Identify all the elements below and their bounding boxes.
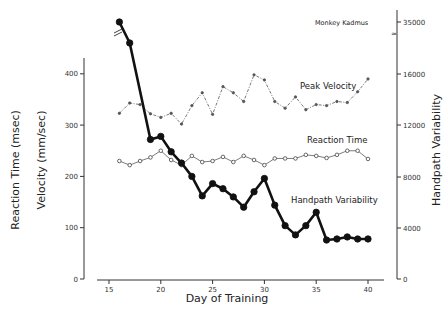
peak-velocity-point [180,123,182,125]
y-axis-title-reaction-time: Reaction Time (msec) [9,110,22,230]
handpath-variability-point [344,234,350,240]
peak-velocity-point [336,100,338,102]
reaction-time-point [242,154,246,158]
reaction-time-point [138,159,142,163]
label-reaction-time: Reaction Time [307,135,367,145]
y-axis-title-velocity: Velocity (mm/sec) [35,111,48,210]
peak-velocity-point [191,104,193,106]
handpath-variability-point [147,136,153,142]
peak-velocity-point [118,112,120,114]
right-tick-label: 12000 [403,122,425,130]
reaction-time-point [294,157,298,161]
peak-velocity-point [232,92,234,94]
left-tick-label: 0 [74,276,78,284]
reaction-time-point [283,157,287,161]
chart-figure: 0100200300400 ≈ 040008000120001600035000… [0,0,448,313]
left-y-ticks: 0100200300400 [65,70,84,283]
left-tick-label: 400 [65,70,78,78]
handpath-variability-point [282,222,288,228]
series-handpath-variability [114,19,371,243]
handpath-variability-point [220,186,226,192]
left-tick-label: 200 [65,173,78,181]
peak-velocity-point [294,96,296,98]
reaction-time-point [304,153,308,157]
handpath-variability-point [303,222,309,228]
reaction-time-point [314,154,318,158]
handpath-variability-point [251,189,257,195]
peak-velocity-point [367,78,369,80]
handpath-variability-point [189,173,195,179]
handpath-variability-point [168,149,174,155]
x-tick-label: 40 [364,286,373,294]
reaction-time-point [118,159,122,163]
x-tick-label: 35 [312,286,321,294]
reaction-time-point [366,157,370,161]
left-tick-label: 300 [65,122,78,130]
reaction-time-point [169,158,173,162]
handpath-variability-point [313,209,319,215]
peak-velocity-point [253,74,255,76]
label-handpath-variability: Handpath Variability [291,195,378,205]
right-tick-label: 0 [403,276,407,284]
peak-velocity-point [149,113,151,115]
reaction-time-point [345,149,349,153]
handpath-variability-point [334,236,340,242]
axis-break-mark: ≈ [391,30,397,38]
handpath-variability-point [354,236,360,242]
handpath-variability-point [158,133,164,139]
x-tick-label: 20 [156,286,165,294]
handpath-variability-point [209,180,215,186]
right-y-ticks: 040008000120001600035000 [397,19,425,284]
x-tick-label: 15 [105,286,114,294]
peak-velocity-point [160,116,162,118]
reaction-time-point [232,160,236,164]
handpath-variability-point [199,193,205,199]
handpath-variability-point [240,204,246,210]
peak-velocity-point [315,103,317,105]
peak-velocity-point [201,92,203,94]
peak-velocity-point [242,100,244,102]
reaction-time-point [263,163,267,167]
peak-velocity-point [346,101,348,103]
handpath-variability-point [127,40,133,46]
peak-velocity-point [222,85,224,87]
right-tick-label: 4000 [403,225,421,233]
reaction-time-point [190,154,194,158]
series-reaction-time [118,149,370,167]
handpath-variability-point [292,232,298,238]
reaction-time-point [273,157,277,161]
left-tick-label: 100 [65,224,78,232]
peak-velocity-point [129,102,131,104]
reaction-time-point [356,149,360,153]
peak-velocity-point [305,109,307,111]
x-axis-title: Day of Training [186,292,269,305]
reaction-time-point [221,155,225,159]
right-tick-label: 35000 [403,19,425,27]
right-tick-label: 8000 [403,174,421,182]
handpath-variability-point [365,236,371,242]
peak-velocity-point [170,112,172,114]
reaction-time-point [128,163,132,167]
reaction-time-point [252,158,256,162]
handpath-variability-point [230,194,236,200]
chart-title: Monkey Kadmus [315,19,369,27]
handpath-variability-point [272,202,278,208]
handpath-variability-point [323,237,329,243]
peak-velocity-point [274,100,276,102]
handpath-variability-point [178,160,184,166]
reaction-time-point [149,156,153,160]
reaction-time-point [335,153,339,157]
peak-velocity-point [139,103,141,105]
handpath-variability-point [116,19,122,25]
peak-velocity-point [325,104,327,106]
right-tick-label: 16000 [403,71,425,79]
y-axis-title-handpath: Handpath Variability [430,93,443,206]
peak-velocity-point [211,113,213,115]
label-peak-velocity: Peak Velocity [300,81,356,91]
reaction-time-point [211,159,215,163]
reaction-time-point [200,160,204,164]
handpath-variability-point [261,175,267,181]
reaction-time-point [325,156,329,160]
peak-velocity-point [356,91,358,93]
peak-velocity-point [263,79,265,81]
